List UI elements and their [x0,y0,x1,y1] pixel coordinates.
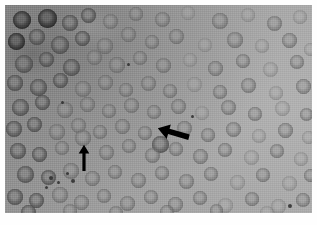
red-blood-cell [252,129,266,143]
red-blood-cell [278,123,293,138]
micrograph-plate [5,5,312,213]
red-blood-cell [169,29,184,44]
red-blood-cell [93,125,107,139]
red-blood-cell [275,101,290,116]
red-blood-cell [236,54,250,68]
red-blood-cell [255,39,269,53]
platelet-speck [191,115,194,118]
red-blood-cell [269,86,283,100]
red-blood-cell [226,122,241,137]
platelet-speck [49,176,53,180]
red-blood-cell [248,107,262,121]
red-blood-cell [260,206,274,213]
red-blood-cell [296,79,311,94]
red-blood-cell [99,145,114,160]
red-blood-cell [187,77,202,92]
red-blood-cell [270,144,284,158]
red-blood-cell [193,149,208,164]
red-blood-cell [15,55,33,73]
red-blood-cell [80,97,95,112]
red-blood-cell [201,128,215,142]
red-blood-cell [97,189,111,203]
red-blood-cell [282,33,297,48]
red-blood-cell [195,106,209,120]
red-blood-cell [244,150,259,165]
red-blood-cell [263,62,278,77]
red-blood-cell [63,204,77,213]
red-blood-cell [75,31,90,46]
red-blood-cell [155,12,170,27]
red-blood-cell [218,143,232,157]
red-blood-cell [62,15,78,31]
red-blood-cell [129,7,143,21]
platelet-speck [127,63,130,66]
red-blood-cell [296,193,310,207]
red-blood-cell [212,13,228,29]
red-blood-cell [63,163,79,179]
red-blood-cell [198,38,212,52]
red-blood-cell [227,32,243,48]
red-blood-cell [53,73,68,88]
red-blood-cell [12,99,29,116]
red-blood-cell [55,141,69,155]
red-blood-cell [39,52,54,67]
red-blood-cell [294,152,308,166]
red-blood-cell [208,61,223,76]
red-blood-cell [141,76,156,91]
red-blood-cell [204,167,218,181]
platelet-speck [288,204,292,208]
platelet-speck [61,101,64,104]
red-blood-cell [32,147,47,162]
red-blood-cell [221,100,236,115]
red-blood-cell [108,165,122,179]
red-blood-cell [121,27,136,42]
red-blood-cell [183,53,197,67]
red-blood-cell [119,83,133,97]
red-blood-cell [179,174,194,189]
red-blood-cell [193,191,207,205]
red-blood-cell [98,75,113,90]
red-blood-cell [85,171,100,186]
platelet-speck [45,186,48,189]
red-blood-cell [7,189,23,205]
red-blood-cell [181,6,195,20]
red-blood-cell [75,81,91,97]
red-blood-cell [109,57,125,73]
red-blood-cell [290,55,304,69]
red-blood-cell [171,99,186,114]
red-blood-cell [109,206,123,213]
red-blood-cell [21,205,36,213]
platelet-speck [66,172,69,175]
red-blood-cell [160,205,174,213]
red-blood-cell [267,16,282,31]
red-blood-cell [17,166,34,183]
platelet-speck [71,179,75,183]
red-blood-cell [81,8,96,23]
red-blood-cell [35,95,50,110]
red-blood-cell [13,11,31,29]
red-blood-cell [138,126,152,140]
red-blood-cell [131,173,146,188]
red-blood-cell [213,85,227,99]
red-blood-cell [230,175,245,190]
red-blood-cell [133,51,147,65]
red-blood-cell [241,8,255,22]
platelet-speck [57,181,60,184]
red-blood-cell [102,104,116,118]
red-blood-cell [282,176,297,191]
red-blood-cell [144,190,158,204]
red-blood-cell [156,58,171,73]
red-blood-cell [210,204,223,213]
red-blood-cell [163,84,177,98]
red-blood-cell [63,59,80,76]
red-blood-cell [293,10,307,24]
red-blood-cell [87,50,102,65]
red-blood-cell [302,131,312,144]
red-blood-cell [245,192,259,206]
red-blood-cell [155,166,169,180]
red-blood-cell [177,121,192,136]
red-blood-cell [304,43,312,56]
red-blood-cell [7,75,23,91]
red-blood-cell [122,139,136,153]
red-blood-cell [120,196,135,211]
